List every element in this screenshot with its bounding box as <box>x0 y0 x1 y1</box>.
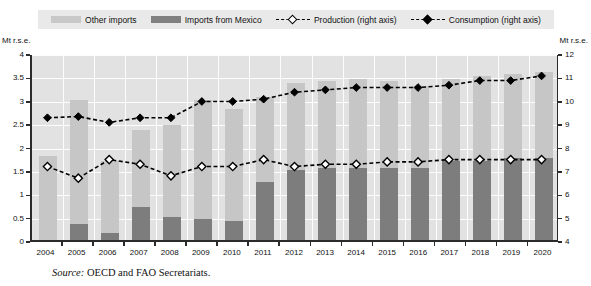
right-axis-tick-label: 10 <box>565 98 574 106</box>
right-axis-tick-label: 7 <box>565 168 569 176</box>
filled-diamond-marker <box>507 77 515 85</box>
x-axis-tick-label: 2017 <box>440 248 458 257</box>
axis-tick <box>26 218 30 220</box>
filled-diamond-marker <box>105 119 113 127</box>
filled-diamond-marker <box>136 114 144 122</box>
open-diamond-marker <box>198 162 206 170</box>
right-axis-tick-label: 4 <box>565 238 569 246</box>
open-diamond-marker <box>352 160 360 168</box>
legend-item: Consumption (right axis) <box>411 15 541 25</box>
filled-diamond-marker <box>167 114 175 122</box>
x-axis-tick <box>247 242 249 246</box>
axis-tick <box>558 218 562 220</box>
left-axis-tick-label: 1.5 <box>13 168 24 176</box>
filled-diamond-marker <box>322 86 330 94</box>
left-axis-tick-label: 1 <box>20 191 24 199</box>
line-path <box>47 76 541 123</box>
x-axis-tick-label: 2014 <box>347 248 365 257</box>
x-axis-tick <box>278 242 280 246</box>
x-axis-tick-label: 2015 <box>378 248 396 257</box>
axis-tick <box>558 195 562 197</box>
x-axis-tick <box>61 242 63 246</box>
x-axis-tick-label: 2007 <box>130 248 148 257</box>
x-axis-tick <box>465 242 467 246</box>
axis-tick <box>26 171 30 173</box>
filled-diamond-marker <box>44 114 52 122</box>
x-axis-tick <box>92 242 94 246</box>
x-axis-tick-label: 2020 <box>534 248 552 257</box>
left-axis-tick-label: 3.5 <box>13 74 24 82</box>
right-axis-tick-label: 11 <box>565 74 573 82</box>
x-axis-tick <box>341 242 343 246</box>
filled-diamond-marker <box>414 84 422 92</box>
right-axis-tick-label: 9 <box>565 121 569 129</box>
left-axis-tick-label: 0 <box>20 238 24 246</box>
axis-tick <box>558 124 562 126</box>
legend-label: Imports from Mexico <box>185 15 262 25</box>
line-series-group <box>32 55 557 241</box>
filled-diamond-marker <box>291 88 299 96</box>
axis-tick <box>558 78 562 80</box>
axis-tick <box>558 101 562 103</box>
x-axis-tick-label: 2010 <box>223 248 241 257</box>
legend-label: Other imports <box>85 15 137 25</box>
open-diamond-icon <box>287 15 297 25</box>
open-diamond-marker <box>74 174 82 182</box>
bar-swatch-light-icon <box>51 16 81 23</box>
filled-diamond-marker <box>476 77 484 85</box>
x-axis-tick <box>434 242 436 246</box>
axis-tick <box>26 54 30 56</box>
legend-label: Production (right axis) <box>314 15 397 25</box>
filled-diamond-marker <box>352 84 360 92</box>
open-diamond-marker <box>414 158 422 166</box>
legend-label: Consumption (right axis) <box>449 15 541 25</box>
left-axis-tick-label: 2.5 <box>13 121 24 129</box>
axis-tick <box>558 171 562 173</box>
axis-tick <box>558 241 562 243</box>
filled-diamond-marker <box>198 98 206 106</box>
axis-tick <box>26 101 30 103</box>
open-diamond-marker <box>43 162 51 170</box>
filled-diamond-marker <box>383 84 391 92</box>
source-text: OECD and FAO Secretariats. <box>87 267 210 278</box>
right-axis-tick-label: 5 <box>565 215 569 223</box>
axis-tick <box>26 78 30 80</box>
open-diamond-marker <box>260 156 268 164</box>
filled-diamond-marker <box>538 72 546 80</box>
x-axis-tick-label: 2019 <box>503 248 521 257</box>
open-diamond-marker <box>383 158 391 166</box>
legend-item: Imports from Mexico <box>151 15 262 25</box>
x-axis-tick <box>154 242 156 246</box>
open-diamond-marker <box>290 162 298 170</box>
axis-tick <box>26 124 30 126</box>
filled-diamond-marker <box>229 98 237 106</box>
right-axis-tick-label: 12 <box>565 51 574 59</box>
x-axis-tick-label: 2009 <box>192 248 210 257</box>
open-diamond-marker <box>105 156 113 164</box>
left-axis-tick-label: 0.5 <box>13 215 24 223</box>
x-axis-tick-label: 2005 <box>68 248 86 257</box>
left-axis-tick-label: 2 <box>20 145 24 153</box>
source-prefix: Source: <box>52 267 84 278</box>
x-axis-tick <box>496 242 498 246</box>
legend-item: Other imports <box>51 15 137 25</box>
x-axis-tick-label: 2013 <box>316 248 334 257</box>
filled-diamond-marker <box>445 81 453 89</box>
x-axis-tick-label: 2016 <box>409 248 427 257</box>
open-diamond-marker <box>321 160 329 168</box>
open-diamond-marker <box>476 156 484 164</box>
left-axis-caption: Mt r.s.e. <box>2 36 30 45</box>
axis-tick <box>558 148 562 150</box>
filled-diamond-icon <box>422 15 432 25</box>
left-axis-tick-label: 4 <box>20 51 24 59</box>
open-diamond-marker <box>167 172 175 180</box>
plot-region <box>30 55 558 242</box>
x-axis-tick-label: 2004 <box>37 248 55 257</box>
open-diamond-marker <box>507 156 515 164</box>
left-axis-tick-label: 3 <box>20 98 24 106</box>
x-axis-tick-label: 2018 <box>471 248 489 257</box>
x-axis-tick <box>216 242 218 246</box>
axis-tick <box>558 54 562 56</box>
axis-tick <box>26 148 30 150</box>
filled-diamond-marker <box>260 95 268 103</box>
